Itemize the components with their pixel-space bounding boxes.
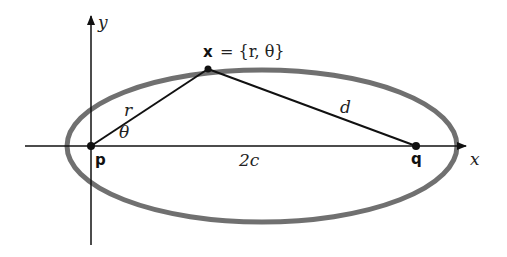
d-label: d [340,97,351,117]
theta-label: θ [119,122,129,142]
point-x-label: x [203,43,213,61]
y-axis-label: y [97,12,108,32]
r-label: r [124,100,133,120]
focus-q-label: q [411,150,422,168]
focal-distance-label: 2c [238,150,260,170]
focus-p-dot [87,142,95,150]
focus-q-dot [412,142,420,150]
ellipse-diagram: y x x = {r, θ} p q r θ d 2c [0,0,507,257]
point-x-equation: = {r, θ} [220,42,285,61]
segment-d [208,69,416,146]
x-axis-label: x [470,149,480,169]
segment-r [91,69,208,146]
point-x-dot [205,66,212,73]
focus-p-label: p [95,151,106,169]
